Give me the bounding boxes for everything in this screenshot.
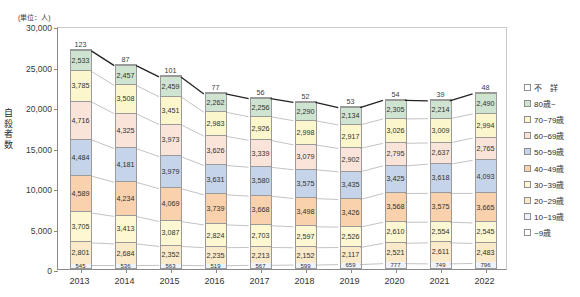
bar-segment[interactable]: 567 <box>251 263 271 268</box>
bar-segment[interactable]: 2,597 <box>296 225 316 246</box>
bar-segment[interactable]: 3,618 <box>431 163 451 192</box>
bar-segment[interactable]: 3,973 <box>161 124 181 156</box>
bar-segment[interactable]: 2,213 <box>251 246 271 264</box>
bar-segment[interactable]: 4,716 <box>71 101 91 139</box>
legend-item[interactable]: 30~39歳 <box>524 176 578 192</box>
stacked-bar[interactable]: 5672,2132,7033,6683,5803,3392,9262,256 <box>250 97 272 269</box>
bar-segment[interactable]: 2,521 <box>386 242 406 262</box>
bar-segment[interactable]: 2,352 <box>161 245 181 264</box>
legend-item[interactable]: 20~29歳 <box>524 192 578 208</box>
bar-segment[interactable]: 2,134 <box>341 107 361 124</box>
bar-segment[interactable]: 2,611 <box>431 241 451 262</box>
bar-segment[interactable]: 3,665 <box>476 192 496 221</box>
bar-segment[interactable]: 4,589 <box>71 175 91 212</box>
bar-segment[interactable]: 4,234 <box>116 181 136 215</box>
bar-segment[interactable]: 3,026 <box>386 118 406 142</box>
bar-segment[interactable]: 2,795 <box>386 142 406 164</box>
bar-segment[interactable]: 3,705 <box>71 211 91 241</box>
bar-segment[interactable]: 3,785 <box>71 70 91 100</box>
bar-segment[interactable]: 796 <box>476 262 496 268</box>
bar-segment[interactable]: 2,801 <box>71 241 91 263</box>
bar-segment[interactable]: 659 <box>341 263 361 268</box>
bar-segment[interactable]: 2,214 <box>431 100 451 118</box>
bar-segment[interactable]: 519 <box>206 264 226 268</box>
bar-segment[interactable]: 3,668 <box>251 195 271 224</box>
legend-item[interactable]: 80歳~ <box>524 95 578 111</box>
bar-segment[interactable]: 2,152 <box>296 246 316 263</box>
bar-group[interactable]: 5672,2132,7033,6683,5803,3392,9262,256 <box>250 26 272 269</box>
bar-segment[interactable]: 2,290 <box>296 102 316 120</box>
bar-segment[interactable]: 2,684 <box>116 242 136 264</box>
legend-item[interactable]: 70~79歳 <box>524 111 578 127</box>
bar-segment[interactable]: 3,508 <box>116 84 136 112</box>
bar-group[interactable]: 5452,8013,7054,5894,4844,7163,7852,533 <box>70 26 92 269</box>
bar-segment[interactable]: 536 <box>116 264 136 268</box>
bar-group[interactable]: 5192,2352,8243,7393,6313,6262,9832,262 <box>205 26 227 269</box>
stacked-bar[interactable]: 5192,2352,8243,7393,6313,6262,9832,262 <box>205 92 227 269</box>
legend-item[interactable]: 40~49歳 <box>524 160 578 176</box>
bar-segment[interactable]: 2,490 <box>476 93 496 113</box>
bar-segment[interactable]: 563 <box>161 264 181 269</box>
bar-segment[interactable]: 2,926 <box>251 116 271 139</box>
stacked-bar[interactable]: 6592,1172,5263,4263,4352,9022,9172,134 <box>340 106 362 269</box>
legend-item[interactable]: 10~19歳 <box>524 209 578 225</box>
bar-segment[interactable]: 3,413 <box>116 215 136 242</box>
bar-segment[interactable]: 2,902 <box>341 147 361 170</box>
bar-segment[interactable]: 2,457 <box>116 65 136 85</box>
bar-segment[interactable]: 777 <box>386 262 406 268</box>
bar-segment[interactable]: 3,575 <box>296 169 316 198</box>
bar-segment[interactable]: 2,533 <box>71 50 91 70</box>
bar-segment[interactable]: 3,426 <box>341 198 361 225</box>
bar-segment[interactable]: 2,256 <box>251 98 271 116</box>
bar-segment[interactable]: 3,435 <box>341 171 361 198</box>
bar-segment[interactable]: 2,117 <box>341 246 361 263</box>
stacked-bar[interactable]: 7772,5212,6103,5683,4252,7953,0262,305 <box>385 99 407 269</box>
bar-segment[interactable]: 2,765 <box>476 137 496 159</box>
bar-segment[interactable]: 3,626 <box>206 135 226 164</box>
bar-segment[interactable]: 2,637 <box>431 142 451 163</box>
stacked-bar[interactable]: 5452,8013,7054,5894,4844,7163,7852,533 <box>70 49 92 269</box>
bar-segment[interactable]: 3,498 <box>296 197 316 225</box>
bar-segment[interactable]: 4,069 <box>161 187 181 220</box>
bar-segment[interactable]: 4,325 <box>116 113 136 148</box>
legend-item[interactable]: ~9歳 <box>524 225 578 241</box>
bar-segment[interactable]: 3,079 <box>296 144 316 169</box>
bar-segment[interactable]: 2,545 <box>476 221 496 241</box>
legend-item[interactable]: 60~69歳 <box>524 128 578 144</box>
bar-segment[interactable]: 2,262 <box>206 93 226 111</box>
bar-segment[interactable]: 3,339 <box>251 139 271 166</box>
bar-group[interactable]: 7962,4832,5453,6654,0932,7652,9942,490 <box>475 26 497 269</box>
bar-segment[interactable]: 2,235 <box>206 246 226 264</box>
bar-segment[interactable]: 2,703 <box>251 224 271 246</box>
stacked-bar[interactable]: 5632,3523,0874,0693,9793,9733,4512,459 <box>160 75 182 269</box>
legend-item[interactable]: 50~59歳 <box>524 144 578 160</box>
bar-segment[interactable]: 2,994 <box>476 113 496 137</box>
bar-segment[interactable]: 3,009 <box>431 118 451 142</box>
bar-segment[interactable]: 3,568 <box>386 192 406 221</box>
bar-group[interactable]: 7492,6112,5543,5753,6182,6373,0092,214 <box>430 26 452 269</box>
bar-segment[interactable]: 2,998 <box>296 120 316 144</box>
stacked-bar[interactable]: 5362,6843,4134,2344,1814,3253,5082,457 <box>115 64 137 269</box>
bar-segment[interactable]: 3,739 <box>206 193 226 223</box>
legend-item[interactable]: 不 詳 <box>524 79 578 95</box>
bar-segment[interactable]: 3,425 <box>386 165 406 192</box>
bar-segment[interactable]: 2,917 <box>341 124 361 147</box>
bar-segment[interactable]: 545 <box>71 264 91 268</box>
bar-segment[interactable]: 2,554 <box>431 221 451 241</box>
bar-segment[interactable]: 599 <box>296 263 316 268</box>
stacked-bar[interactable]: 7962,4832,5453,6654,0932,7652,9942,490 <box>475 92 497 269</box>
bar-segment[interactable]: 2,824 <box>206 223 226 246</box>
bar-group[interactable]: 5992,1522,5973,4983,5753,0792,9982,290 <box>295 26 317 269</box>
bar-segment[interactable]: 3,575 <box>431 192 451 221</box>
stacked-bar[interactable]: 7492,6112,5543,5753,6182,6373,0092,214 <box>430 99 452 269</box>
bar-segment[interactable]: 2,483 <box>476 242 496 262</box>
bar-group[interactable]: 5632,3523,0874,0693,9793,9733,4512,459 <box>160 26 182 269</box>
bar-segment[interactable]: 3,631 <box>206 164 226 193</box>
bar-segment[interactable]: 2,526 <box>341 226 361 246</box>
bar-segment[interactable]: 4,181 <box>116 147 136 181</box>
bar-segment[interactable]: 4,484 <box>71 139 91 175</box>
bar-segment[interactable]: 3,979 <box>161 155 181 187</box>
bar-segment[interactable]: 749 <box>431 262 451 268</box>
bar-segment[interactable]: 3,451 <box>161 96 181 124</box>
bar-group[interactable]: 6592,1172,5263,4263,4352,9022,9172,134 <box>340 26 362 269</box>
